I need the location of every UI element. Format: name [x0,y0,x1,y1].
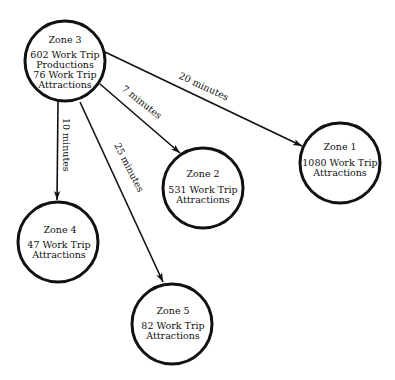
edge-zone3-zone2: 7 minutes [100,83,180,153]
zone-2-line-2: Attractions [175,194,230,205]
zone-3-title: Zone 3 [48,34,81,45]
zone-5-title: Zone 5 [156,305,189,316]
zone-3-line-4: Attractions [37,79,92,90]
zone-1-title: Zone 1 [323,141,356,152]
edge-label-20-minutes: 20 minutes [177,70,230,103]
arrow-10-minutes [57,102,58,200]
edge-label-25-minutes: 25 minutes [112,141,146,194]
zone-4-line-2: Attractions [31,249,86,260]
edge-label-10-minutes: 10 minutes [61,118,72,172]
zone-5-line-2: Attractions [145,330,200,341]
zone-2-title: Zone 2 [186,168,219,179]
node-zone-3: Zone 3 602 Work Trip Productions 76 Work… [25,21,105,101]
node-zone-1: Zone 1 1080 Work Trip Attractions [300,123,380,203]
node-zone-4: Zone 4 47 Work Trip Attractions [18,202,98,282]
trip-distribution-diagram: 20 minutes 7 minutes 10 minutes 25 minut… [0,0,395,380]
edge-zone3-zone4: 10 minutes [57,102,72,200]
edge-label-7-minutes: 7 minutes [120,83,164,121]
zone-4-title: Zone 4 [43,224,76,235]
node-zone-5: Zone 5 82 Work Trip Attractions [132,284,212,364]
zone-1-line-2: Attractions [312,167,367,178]
node-zone-2: Zone 2 531 Work Trip Attractions [163,148,243,228]
